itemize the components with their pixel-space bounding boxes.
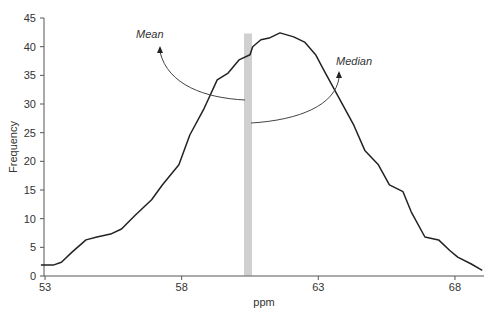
y-tick-label: 5 [30, 241, 36, 253]
y-tick-label: 40 [24, 41, 36, 53]
frequency-curve [41, 33, 482, 270]
mean-median-lines [245, 33, 251, 276]
median-arrow [251, 78, 339, 123]
annotation-arrows [157, 46, 342, 123]
tick-labels: 05101520253035404553586368 [24, 12, 461, 293]
x-tick-label: 63 [312, 281, 324, 293]
y-tick-label: 10 [24, 213, 36, 225]
y-axis-title: Frequency [7, 121, 19, 173]
x-tick-label: 58 [176, 281, 188, 293]
y-tick-label: 30 [24, 98, 36, 110]
median-arrowhead-icon [336, 71, 342, 78]
chart: 05101520253035404553586368 Mean Median p… [0, 0, 492, 323]
y-tick-label: 0 [30, 270, 36, 282]
mean-arrowhead-icon [157, 46, 163, 53]
x-tick-label: 68 [449, 281, 461, 293]
y-tick-label: 15 [24, 184, 36, 196]
x-axis-title: ppm [253, 296, 274, 308]
mean-arrow [160, 52, 245, 100]
y-tick-label: 20 [24, 155, 36, 167]
mean-label: Mean [136, 28, 164, 40]
median-label: Median [336, 55, 372, 67]
axes [40, 18, 484, 280]
y-tick-label: 25 [24, 127, 36, 139]
y-tick-label: 35 [24, 69, 36, 81]
x-tick-label: 53 [39, 281, 51, 293]
y-tick-label: 45 [24, 12, 36, 24]
